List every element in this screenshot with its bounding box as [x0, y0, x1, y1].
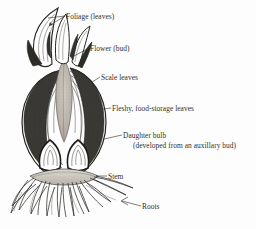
label-daughter-bulb: Daughter bulb (developed from an auxilla… — [123, 131, 236, 150]
leader-daughter — [104, 135, 122, 139]
bulb-illustration — [0, 0, 256, 229]
flower-bud — [56, 60, 72, 142]
label-foliage: Foliage (leaves) — [66, 12, 114, 22]
basal-plate-stem — [30, 169, 98, 185]
label-roots: Roots — [142, 202, 160, 212]
label-daughter-bulb-line2: (developed from an auxillary bud) — [133, 141, 236, 151]
leader-roots — [121, 197, 141, 206]
label-scale-leaves: Scale leaves — [101, 73, 138, 83]
label-flower: Flower (bud) — [90, 44, 129, 54]
label-fleshy-food-storage-leaves: Fleshy, food-storage leaves — [112, 104, 194, 114]
label-stem: Stem — [108, 172, 123, 182]
label-daughter-bulb-line1: Daughter bulb — [123, 131, 166, 140]
bulb-diagram-figure: Foliage (leaves) Flower (bud) Scale leav… — [0, 0, 256, 229]
